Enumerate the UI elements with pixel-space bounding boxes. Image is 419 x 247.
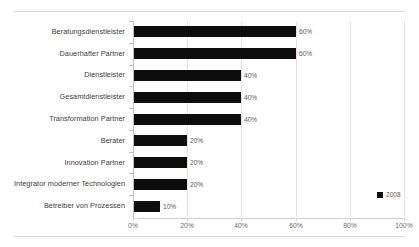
category-label: Beratungsdienstleister [52, 26, 125, 38]
bar-value-label: 40% [244, 114, 257, 125]
bar [133, 135, 187, 146]
value-tick [241, 218, 242, 221]
chart-legend: 2008 [377, 191, 401, 198]
bar-value-label: 20% [190, 157, 203, 168]
category-axis-line [133, 218, 404, 219]
bar-value-label: 20% [190, 179, 203, 190]
value-tick [296, 218, 297, 221]
bar [133, 114, 241, 125]
category-label: Betreiber von Prozessen [44, 200, 125, 212]
gridline [404, 21, 405, 217]
category-label: Dauerhafter Partner [60, 48, 125, 60]
bar-value-label: 60% [299, 48, 312, 59]
value-tick [133, 218, 134, 221]
category-label: Integrator moderner Technologien [14, 178, 125, 190]
chart-plot-wrapper: BeratungsdienstleisterDauerhafter Partne… [0, 0, 419, 247]
value-tick-label: 40% [226, 222, 256, 229]
gridline [350, 21, 351, 217]
plot-area: 60%60%40%40%40%20%20%20%10% [133, 21, 404, 217]
legend-swatch-icon [377, 192, 383, 198]
value-tick-label: 60% [281, 222, 311, 229]
bar [133, 201, 160, 212]
bar-value-label: 40% [244, 70, 257, 81]
bar [133, 26, 296, 37]
category-label: Dienstleister [84, 69, 125, 81]
bar-value-label: 40% [244, 92, 257, 103]
legend-entry-label: 2008 [386, 191, 401, 198]
category-label: Transformation Partner [49, 113, 125, 125]
category-label: Innovation Partner [64, 157, 125, 169]
category-label: Berater [101, 135, 125, 147]
bar-chart-figure: BeratungsdienstleisterDauerhafter Partne… [0, 0, 419, 247]
category-label: Gesamtdienstleister [60, 91, 125, 103]
bar [133, 48, 296, 59]
bar [133, 179, 187, 190]
bar-value-label: 60% [299, 26, 312, 37]
value-tick [404, 218, 405, 221]
bar [133, 70, 241, 81]
value-tick [187, 218, 188, 221]
value-axis-line [133, 21, 134, 218]
value-tick-label: 100% [389, 222, 419, 229]
value-tick [350, 218, 351, 221]
value-tick-label: 80% [335, 222, 365, 229]
value-tick-label: 20% [172, 222, 202, 229]
gridline [296, 21, 297, 217]
bar-value-label: 10% [163, 201, 176, 212]
bar [133, 92, 241, 103]
bar-value-label: 20% [190, 135, 203, 146]
bar [133, 157, 187, 168]
category-axis-labels: BeratungsdienstleisterDauerhafter Partne… [0, 21, 129, 217]
value-tick-label: 0% [118, 222, 148, 229]
